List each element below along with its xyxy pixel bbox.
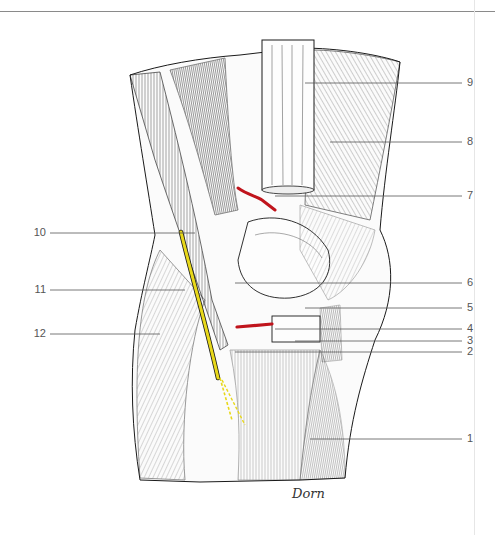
label-8: 8 (467, 136, 473, 147)
label-7: 7 (467, 190, 473, 201)
knee-illustration (0, 0, 499, 535)
label-5: 5 (467, 302, 473, 313)
label-11: 11 (26, 284, 46, 295)
label-2: 2 (467, 346, 473, 357)
label-9: 9 (467, 77, 473, 88)
label-12: 12 (26, 328, 46, 339)
label-10: 10 (26, 227, 46, 238)
label-6: 6 (467, 277, 473, 288)
artist-signature: Dorn (292, 486, 325, 501)
label-1: 1 (467, 433, 473, 444)
label-4: 4 (467, 323, 473, 334)
